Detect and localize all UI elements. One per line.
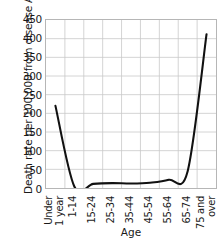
y-tick-label: 300 — [16, 71, 42, 81]
y-tick-label: 250 — [16, 90, 42, 100]
line-chart-figure: Death rate per 100,000 from disease A 05… — [0, 0, 224, 243]
y-tick-label: 200 — [16, 108, 42, 118]
y-tick-label: 150 — [16, 127, 42, 137]
y-axis-tick-labels: 050100150200250300350400450 — [16, 14, 42, 189]
y-tick-label: 100 — [16, 146, 42, 156]
plot-area — [45, 19, 217, 189]
y-tick-label: 450 — [16, 14, 42, 24]
y-tick-label: 350 — [16, 52, 42, 62]
y-tick-label: 0 — [16, 184, 42, 194]
data-series-line — [46, 20, 216, 188]
x-axis-title: Age — [45, 226, 217, 238]
y-tick-label: 400 — [16, 33, 42, 43]
y-tick-label: 50 — [16, 165, 42, 175]
